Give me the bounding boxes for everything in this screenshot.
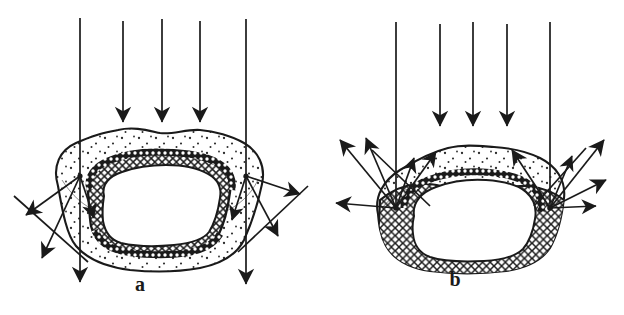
core-void-a bbox=[103, 165, 221, 246]
diagram-canvas: a bbox=[0, 0, 624, 315]
core-void-b bbox=[413, 180, 536, 262]
figure-container: a bbox=[0, 0, 624, 315]
panel-label-b: b bbox=[449, 268, 460, 290]
scatter-node-b-right bbox=[547, 205, 553, 211]
scatter-node-a-right bbox=[243, 173, 248, 178]
scatter-node-b-left bbox=[393, 205, 399, 211]
specimen-body-a bbox=[56, 128, 263, 271]
scatter-node-a-left bbox=[77, 173, 82, 178]
panel-label-a: a bbox=[135, 273, 145, 295]
